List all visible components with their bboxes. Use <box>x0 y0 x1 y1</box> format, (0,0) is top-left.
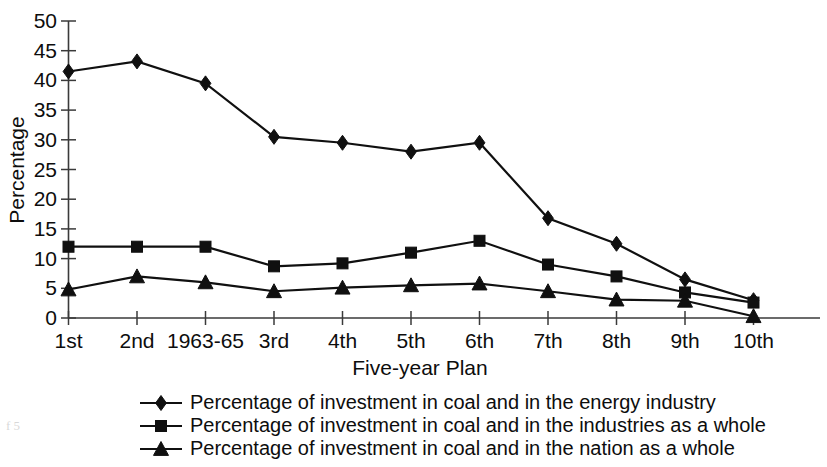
y-tick-label: 10 <box>34 247 57 270</box>
y-tick-label: 40 <box>34 68 57 91</box>
data-point-marker <box>63 64 74 79</box>
line-chart: 05101520253035404550 Percentage 1st2nd19… <box>0 0 827 467</box>
data-point-marker <box>269 261 280 272</box>
y-tick-label: 0 <box>45 306 57 329</box>
legend-diamond-icon <box>156 396 167 411</box>
x-axis-title: Five-year Plan <box>352 356 487 379</box>
data-point-marker <box>406 247 417 258</box>
x-tick-label: 9th <box>670 329 699 352</box>
x-tick-label: 4th <box>328 329 357 352</box>
y-tick-label: 15 <box>34 217 57 240</box>
x-tick-label: 2nd <box>119 329 154 352</box>
x-tick-label: 6th <box>465 329 494 352</box>
data-point-marker <box>337 135 348 150</box>
y-tick-label: 45 <box>34 39 57 62</box>
y-tick-label: 30 <box>34 128 57 151</box>
legend-item: Percentage of investment in coal and in … <box>140 437 735 459</box>
x-tick-label: 5th <box>396 329 425 352</box>
y-axis-group: 05101520253035404550 Percentage <box>5 9 76 329</box>
data-point-marker <box>611 271 622 282</box>
x-tick-label: 8th <box>602 329 631 352</box>
y-tick-label: 35 <box>34 98 57 121</box>
legend-square-icon <box>156 421 167 432</box>
data-point-marker <box>406 144 417 159</box>
data-point-marker <box>200 241 211 252</box>
data-series <box>63 235 759 308</box>
legend-item: Percentage of investment in coal and in … <box>140 414 766 436</box>
data-point-marker <box>269 129 280 144</box>
y-axis-title: Percentage <box>5 116 28 223</box>
legend-label: Percentage of investment in coal and in … <box>190 391 716 413</box>
legend-label: Percentage of investment in coal and in … <box>190 414 766 436</box>
data-series-layer <box>61 54 761 323</box>
y-tick-label: 50 <box>34 9 57 32</box>
data-point-marker <box>63 241 74 252</box>
data-point-marker <box>680 272 691 287</box>
data-point-marker <box>200 76 211 91</box>
x-tick-label: 1st <box>54 329 82 352</box>
x-axis-group: 1st2nd1963-653rd4th5th6th7th8th9th10th F… <box>54 311 820 379</box>
data-point-marker <box>132 241 143 252</box>
series-line <box>69 61 754 300</box>
legend-label: Percentage of investment in coal and in … <box>190 437 735 459</box>
x-tick-label: 1963-65 <box>167 329 244 352</box>
data-point-marker <box>132 54 143 69</box>
y-axis-ticks: 05101520253035404550 <box>34 9 76 329</box>
data-point-marker <box>611 236 622 251</box>
x-tick-label: 3rd <box>259 329 289 352</box>
data-point-marker <box>748 297 759 308</box>
chart-figure: 05101520253035404550 Percentage 1st2nd19… <box>0 0 827 467</box>
data-point-marker <box>337 258 348 269</box>
chart-legend: Percentage of investment in coal and in … <box>140 391 766 459</box>
x-tick-label: 7th <box>533 329 562 352</box>
y-tick-label: 20 <box>34 187 57 210</box>
y-tick-label: 5 <box>45 276 57 299</box>
x-tick-label: 10th <box>733 329 774 352</box>
y-tick-label: 25 <box>34 158 57 181</box>
data-point-marker <box>474 235 485 246</box>
x-axis-tick-labels: 1st2nd1963-653rd4th5th6th7th8th9th10th <box>54 329 773 352</box>
legend-item: Percentage of investment in coal and in … <box>140 391 716 413</box>
data-series <box>63 54 759 308</box>
data-point-marker <box>543 259 554 270</box>
